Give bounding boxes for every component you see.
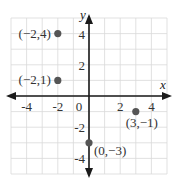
y-tick-label: -4 bbox=[74, 151, 85, 166]
x-tick-label: 2 bbox=[117, 99, 124, 114]
point-label: (−2,4) bbox=[19, 26, 51, 41]
coordinate-plane: y x -4-202442-2-4 (−2,4)(−2,1)(0,−3)(3,−… bbox=[0, 0, 175, 181]
y-tick-label: 4 bbox=[79, 27, 86, 42]
x-axis-label: x bbox=[159, 77, 166, 92]
point-label: (0,−3) bbox=[94, 143, 126, 158]
x-tick-label: 0 bbox=[76, 99, 83, 114]
data-point bbox=[54, 30, 61, 37]
y-axis-label: y bbox=[78, 7, 86, 22]
x-tick-label: -2 bbox=[52, 99, 63, 114]
y-axis-up-arrow-icon bbox=[85, 14, 93, 24]
y-tick-label: 2 bbox=[79, 58, 86, 73]
data-point bbox=[54, 77, 61, 84]
y-axis-down-arrow-icon bbox=[85, 168, 93, 178]
data-point bbox=[85, 139, 92, 146]
x-tick-label: -4 bbox=[21, 99, 32, 114]
x-tick-label: 4 bbox=[148, 99, 155, 114]
point-label: (−2,1) bbox=[19, 72, 51, 87]
y-tick-label: -2 bbox=[74, 120, 85, 135]
point-label: (3,−1) bbox=[126, 115, 158, 130]
